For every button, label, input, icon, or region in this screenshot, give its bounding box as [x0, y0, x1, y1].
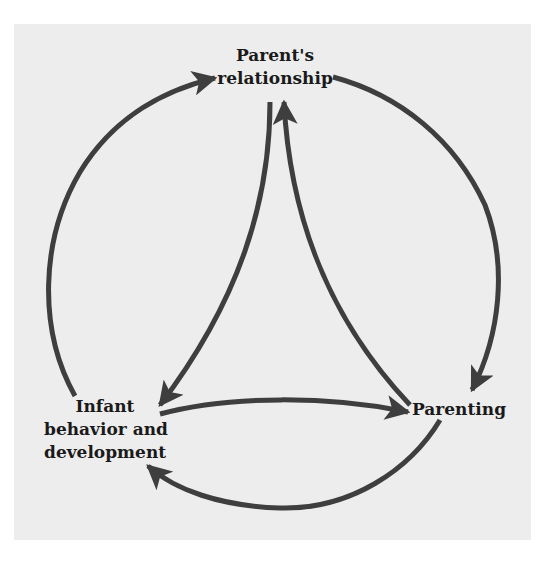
node-label-line: relationship [215, 67, 335, 90]
node-label-line: Infant [44, 395, 166, 418]
edge-parents-to-infant-inner [160, 102, 270, 405]
node-parents-relationship: Parent's relationship [215, 44, 335, 90]
edge-parenting-to-parents-inner [284, 102, 410, 405]
node-label-line: behavior and [44, 418, 166, 441]
edge-infant-to-parents [49, 78, 215, 396]
edge-infant-to-parenting-inner [160, 400, 408, 414]
node-label-line: Parent's [215, 44, 335, 67]
node-label-line: development [44, 441, 166, 464]
node-infant-behavior: Infant behavior and development [44, 395, 166, 464]
node-label-line: Parenting [412, 398, 504, 421]
node-parenting: Parenting [412, 398, 504, 421]
edge-parenting-to-infant [148, 420, 440, 508]
